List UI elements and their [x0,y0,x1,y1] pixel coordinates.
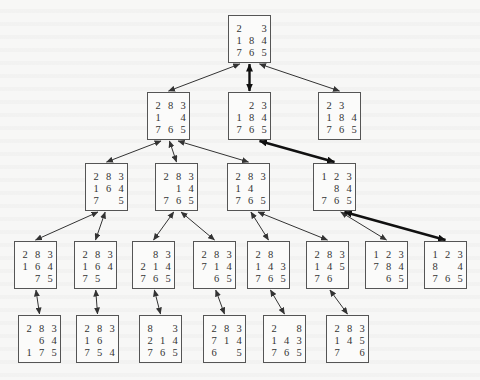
transition-arrow [330,290,348,314]
tile: 7 [90,194,102,207]
tile: 7 [233,123,245,136]
tile: 1 [23,346,35,359]
tile: 7 [252,272,264,285]
blank-tile [198,272,210,285]
puzzle-state-node: 28371465 [203,315,246,363]
tile: 6 [211,272,223,285]
tile: 6 [245,194,257,207]
tile: 7 [137,272,149,285]
puzzle-state-node: 28314765 [155,163,198,211]
tile: 5 [115,194,127,207]
puzzle-state-node: 28314576 [326,315,369,363]
puzzle-state-node: 28316475 [74,241,117,289]
tile: 7 [429,272,441,285]
solution-path-arrow [345,212,446,240]
transition-arrow [178,141,248,162]
puzzle-state-node: 28364175 [18,315,61,363]
tile: 6 [331,194,343,207]
tile: 6 [165,123,177,136]
puzzle-state-node: 28314765 [227,163,270,211]
transition-arrow [169,64,240,91]
blank-tile [19,272,31,285]
tile: 5 [92,272,104,285]
puzzle-state-node: 28316475 [85,163,128,211]
tile: 6 [442,272,454,285]
tile: 6 [246,123,258,136]
tile: 7 [160,194,172,207]
tile: 7 [32,272,44,285]
tile: 5 [169,346,181,359]
puzzle-state-node: 23184765 [228,92,271,140]
puzzle-state-node: 12384765 [424,241,467,289]
transition-arrow [107,141,162,162]
tile: 5 [162,272,174,285]
transition-arrow [251,212,269,240]
transition-arrow [270,290,284,314]
tile: 7 [81,346,93,359]
blank-tile [370,272,382,285]
transition-arrow [260,64,340,91]
puzzle-state-node: 28143765 [247,241,290,289]
transition-arrow [36,212,98,240]
tile: 7 [79,272,91,285]
puzzle-state-node: 23184765 [228,15,271,63]
tile: 7 [268,346,280,359]
puzzle-state-node: 83214765 [132,241,175,289]
tile: 6 [208,346,220,359]
puzzle-state-node: 28316475 [14,241,57,289]
tile: 6 [150,272,162,285]
tile: 4 [106,346,118,359]
tile: 5 [185,194,197,207]
search-tree-diagram: 2318476528314765231847652318476528316475… [0,0,480,380]
puzzle-state-node: 12378465 [365,241,408,289]
blank-tile [344,346,356,359]
transition-arrow [154,290,160,314]
tile: 6 [173,194,185,207]
transition-arrow [96,212,106,240]
tile: 5 [454,272,466,285]
tile: 7 [331,346,343,359]
transition-arrow [181,212,214,240]
tile: 5 [177,123,189,136]
tile: 7 [233,46,245,59]
tile: 7 [36,346,48,359]
tile: 6 [265,272,277,285]
tile: 7 [152,123,164,136]
puzzle-state-node: 28143765 [263,315,306,363]
tile: 6 [157,346,169,359]
transition-arrow [154,212,174,240]
blank-tile [104,272,116,285]
transition-arrow [216,290,225,314]
tile: 5 [258,46,270,59]
tile: 7 [144,346,156,359]
tile: 5 [223,272,235,285]
tile: 6 [336,123,348,136]
tile: 6 [281,346,293,359]
puzzle-state-node: 23184765 [318,92,361,140]
transition-arrow [169,141,176,162]
tile: 7 [311,272,323,285]
tile: 6 [356,346,368,359]
tile: 5 [44,272,56,285]
blank-tile [103,194,115,207]
puzzle-state-node: 28371465 [193,241,236,289]
tile: 5 [395,272,407,285]
tile: 5 [48,346,60,359]
solution-path-arrow [260,141,335,162]
tile: 7 [323,123,335,136]
puzzle-state-node: 28314576 [306,241,349,289]
tile: 5 [233,346,245,359]
tile: 5 [343,194,355,207]
tile: 5 [94,346,106,359]
tile: 5 [293,346,305,359]
tile: 6 [324,272,336,285]
puzzle-state-node: 28316754 [76,315,119,363]
transition-arrow [258,212,328,240]
tile: 5 [258,123,270,136]
transition-arrow [96,290,98,314]
tile: 5 [277,272,289,285]
tile: 6 [246,46,258,59]
tile: 7 [232,194,244,207]
transition-arrow [36,290,40,314]
transition-arrow [341,212,387,240]
